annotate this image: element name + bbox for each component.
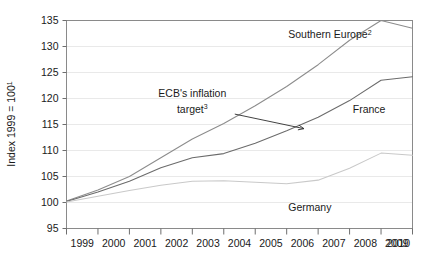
x-axis: 1999200020012002200320042005200620072008… xyxy=(67,229,413,249)
series-line-france xyxy=(67,77,413,202)
y-tick-label: 135 xyxy=(41,14,59,26)
x-tick-label: 2005 xyxy=(259,237,283,249)
series-label-france: France xyxy=(353,103,386,115)
x-tick-label: 2008 xyxy=(354,237,378,249)
x-tick-label: 2010 xyxy=(387,237,411,249)
x-tick-label: 2003 xyxy=(196,237,220,249)
y-axis-title: Index 1999 = 1001 xyxy=(5,81,17,166)
y-axis: 95100105110115120125130135 xyxy=(41,14,67,234)
chart-container: 9510010511011512012513013519992000200120… xyxy=(0,0,430,266)
line-chart: 9510010511011512012513013519992000200120… xyxy=(0,0,430,266)
y-tick-label: 115 xyxy=(42,118,59,130)
series-label-germany: Germany xyxy=(288,201,332,213)
series-label-southern-europe: Southern Europe2 xyxy=(288,28,371,40)
annotation-arrow-shaft xyxy=(235,114,304,129)
x-tick-label: 2001 xyxy=(133,237,157,249)
y-tick-label: 95 xyxy=(47,222,59,234)
y-tick-label: 100 xyxy=(41,196,59,208)
x-tick-label: 2006 xyxy=(291,237,315,249)
annotation-ecb-inflation-target: ECB's inflationtarget3 xyxy=(158,87,304,130)
annotation-line-1: ECB's inflation xyxy=(158,87,226,99)
x-tick-label: 2004 xyxy=(228,237,252,249)
x-tick-label: 2000 xyxy=(102,237,126,249)
x-tick-label: 2002 xyxy=(165,237,189,249)
y-tick-label: 120 xyxy=(41,92,59,104)
y-tick-label: 110 xyxy=(42,144,59,156)
y-tick-label: 125 xyxy=(41,66,59,78)
x-tick-label: 1999 xyxy=(71,237,95,249)
annotation-line-2: target3 xyxy=(177,103,208,115)
x-tick-label: 2007 xyxy=(322,237,346,249)
y-axis-title-text: Index 1999 = 1001 xyxy=(5,81,17,166)
series-line-germany xyxy=(67,153,413,202)
y-tick-label: 130 xyxy=(41,40,59,52)
y-tick-label: 105 xyxy=(41,170,59,182)
